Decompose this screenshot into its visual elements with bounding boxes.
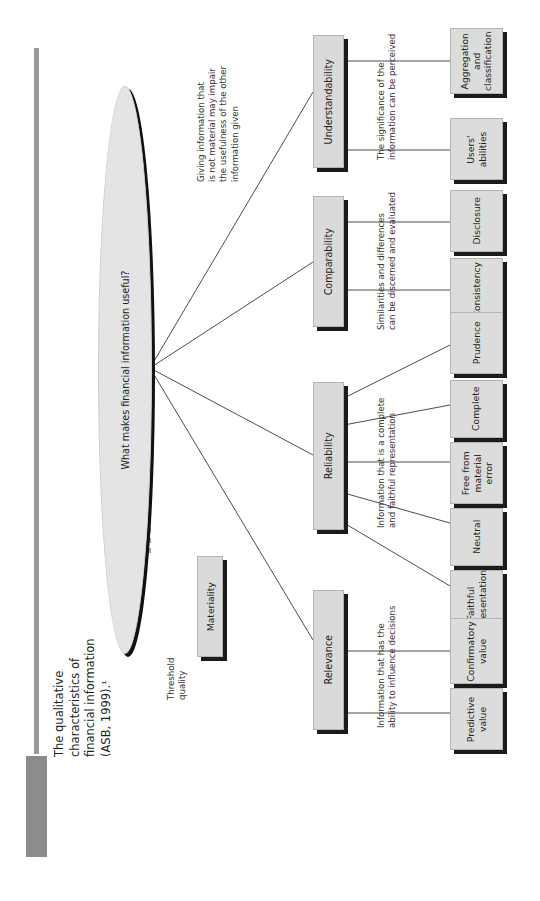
node-free-from-material-error[interactable]: Free from material error <box>450 442 503 504</box>
node-predictive-value[interactable]: Predictive value <box>450 688 503 750</box>
node-consistency-label: Consistency <box>471 262 483 318</box>
node-prudence-label: Prudence <box>471 322 483 365</box>
node-confirmatory-value-label: Confirmatory value <box>465 621 488 681</box>
node-aggregation-and-classification[interactable]: Aggregation and classification <box>450 28 503 94</box>
node-neutral[interactable]: Neutral <box>450 508 503 566</box>
annotation-relevance: Information that has the ability to infl… <box>376 605 398 728</box>
node-relevance[interactable]: Relevance <box>313 590 344 730</box>
node-understandability-label: Understandability <box>323 59 335 144</box>
root-node-label: What makes financial information useful? <box>120 271 131 470</box>
node-disclosure-label: Disclosure <box>471 197 483 244</box>
root-node-ellipse: What makes financial information useful? <box>98 86 152 654</box>
node-free-from-material-error-label: Free from material error <box>459 451 494 495</box>
node-disclosure[interactable]: Disclosure <box>450 190 503 252</box>
node-comparability[interactable]: Comparability <box>313 196 344 327</box>
node-reliability[interactable]: Reliability <box>313 382 344 530</box>
node-predictive-value-label: Predictive value <box>465 696 488 741</box>
annotation-comparability: Similarities and differences can be disc… <box>376 192 398 330</box>
node-neutral-label: Neutral <box>471 520 483 554</box>
materiality-annotation: Giving information that is not material … <box>196 66 241 182</box>
node-prudence[interactable]: Prudence <box>450 312 503 374</box>
node-materiality-label: Materiality <box>204 582 216 631</box>
node-reliability-label: Reliability <box>323 433 335 480</box>
node-users-abilities[interactable]: Users' abilities <box>450 118 503 180</box>
annotation-reliability: Information that is a complete and faith… <box>376 398 398 528</box>
annotation-understandability: The significance of the information can … <box>376 34 398 160</box>
node-complete-label: Complete <box>471 387 483 431</box>
node-comparability-label: Comparability <box>323 228 335 295</box>
node-aggregation-and-classification-label: Aggregation and classification <box>459 31 494 90</box>
threshold-quality-note: Threshold quality <box>166 658 188 700</box>
node-confirmatory-value[interactable]: Confirmatory value <box>450 618 503 684</box>
node-relevance-label: Relevance <box>323 635 335 685</box>
node-materiality[interactable]: Materiality <box>197 556 223 657</box>
qualitative-characteristics-diagram: What makes financial information useful?… <box>0 0 540 901</box>
node-understandability[interactable]: Understandability <box>313 35 344 168</box>
node-complete[interactable]: Complete <box>450 380 503 438</box>
node-users-abilities-label: Users' abilities <box>465 131 488 167</box>
